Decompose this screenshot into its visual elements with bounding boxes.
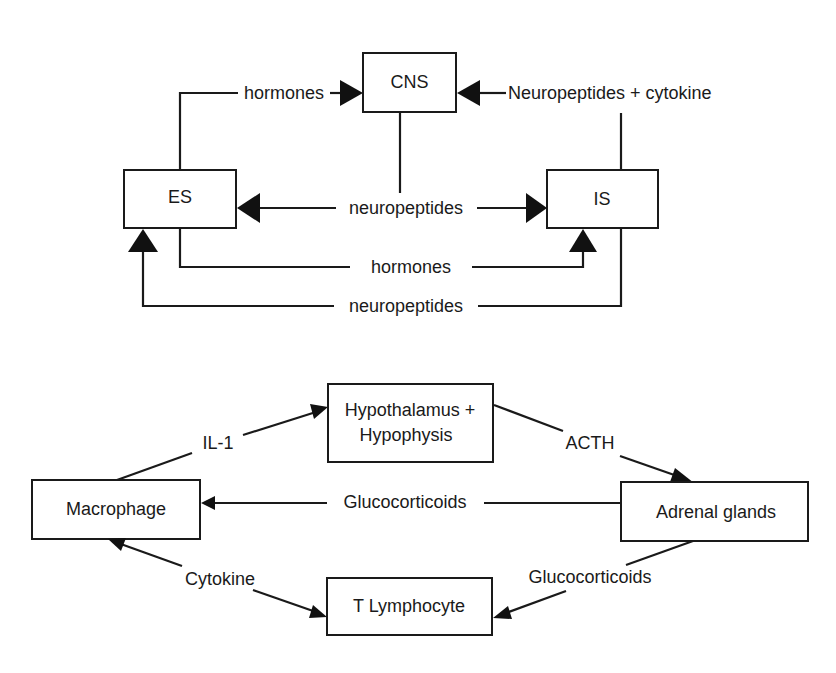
bottom-diagram: IL-1 Hypothalamus + Hypophysis ACTH Macr… xyxy=(32,384,808,635)
node-label: Macrophage xyxy=(66,499,166,519)
node-is: IS xyxy=(547,170,658,228)
edge-es-to-is-hormones: hormones xyxy=(180,228,597,277)
edge-label: Neuropeptides + cytokine xyxy=(508,83,712,103)
arrowhead-icon xyxy=(108,538,126,551)
edge-label: hormones xyxy=(244,83,324,103)
node-label-line2: Hypophysis xyxy=(359,425,452,445)
arrowhead-icon xyxy=(309,605,327,618)
arrowhead-icon xyxy=(310,404,328,419)
edge-adrenal-to-tlymphocyte-glucocorticoids: Glucocorticoids xyxy=(493,541,693,619)
arrowhead-icon xyxy=(493,606,512,619)
edge-label: neuropeptides xyxy=(349,296,463,316)
node-label: ES xyxy=(168,187,192,207)
arrowhead-right-icon xyxy=(526,193,547,223)
edge-label: IL-1 xyxy=(202,433,233,453)
node-label: T Lymphocyte xyxy=(353,596,465,616)
edge-adrenal-to-macrophage-glucocorticoids: Glucocorticoids xyxy=(201,492,621,512)
node-label-line1: Hypothalamus + xyxy=(345,400,476,420)
node-label: Adrenal glands xyxy=(656,502,776,522)
arrowhead-left-icon xyxy=(201,496,215,510)
arrowhead-right-icon xyxy=(340,80,363,106)
edge-cns-es-is-neuropeptides: neuropeptides xyxy=(237,112,547,223)
edge-label: ACTH xyxy=(566,433,615,453)
edge-is-to-cns-neuropeptides-cytokine: Neuropeptides + cytokine xyxy=(457,80,712,170)
node-hypothalamus-hypophysis: Hypothalamus + Hypophysis xyxy=(328,384,493,462)
edge-label: hormones xyxy=(371,257,451,277)
node-label: CNS xyxy=(390,72,428,92)
arrowhead-up-icon xyxy=(128,229,158,252)
edge-label: Cytokine xyxy=(185,569,255,589)
edge-label: Glucocorticoids xyxy=(528,567,651,587)
node-es: ES xyxy=(124,170,236,228)
node-cns: CNS xyxy=(363,53,456,112)
arrowhead-icon xyxy=(670,468,694,483)
node-label: IS xyxy=(593,189,610,209)
edge-macrophage-to-hypothalamus-il1: IL-1 xyxy=(117,404,328,480)
node-macrophage: Macrophage xyxy=(32,480,200,539)
edge-label: Glucocorticoids xyxy=(343,492,466,512)
node-t-lymphocyte: T Lymphocyte xyxy=(327,578,492,635)
arrowhead-left-icon xyxy=(457,80,480,106)
arrowhead-left-icon xyxy=(237,193,260,223)
node-adrenal-glands: Adrenal glands xyxy=(621,482,808,541)
top-diagram: hormones Neuropeptides + cytokine CNS ne… xyxy=(124,53,712,316)
arrowhead-up-icon xyxy=(569,229,597,252)
edge-label: neuropeptides xyxy=(349,198,463,218)
edge-hypothalamus-to-adrenal-acth: ACTH xyxy=(494,405,694,483)
edge-es-to-cns-hormones: hormones xyxy=(180,80,363,170)
neuro-immune-diagram: hormones Neuropeptides + cytokine CNS ne… xyxy=(0,0,836,673)
edge-macrophage-tlymphocyte-cytokine: Cytokine xyxy=(108,538,327,618)
